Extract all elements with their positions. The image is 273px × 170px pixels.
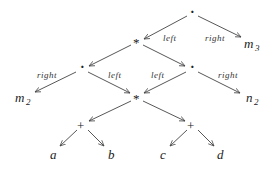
- edge-multop-dotright: [143, 45, 185, 66]
- node-mul-bottom: *: [133, 91, 140, 106]
- node-m3-base: m: [244, 36, 253, 51]
- node-n2-base: n: [246, 90, 253, 105]
- node-d: d: [217, 147, 224, 162]
- node-m2-base: m: [15, 90, 24, 105]
- edge-label-dotleft-right: right: [37, 70, 57, 80]
- edge-label-root-right: right: [205, 33, 225, 43]
- node-mul-top: *: [133, 35, 140, 50]
- edge-label-dotleft-left: left: [108, 70, 122, 80]
- edge-multop-dotleft: [89, 45, 131, 66]
- edge-plusright-d: [198, 130, 214, 146]
- diagram-svg: left right right left left right · * · ·…: [0, 0, 273, 170]
- edge-plusleft-a: [60, 130, 77, 146]
- node-n2-subscript: 2: [254, 97, 259, 107]
- node-m3: m 3: [244, 36, 260, 53]
- node-n2: n 2: [246, 90, 259, 107]
- edge-label-root-left: left: [163, 33, 177, 43]
- node-c: c: [160, 147, 166, 162]
- node-plus-right: +: [187, 118, 194, 133]
- node-b: b: [108, 147, 115, 162]
- node-dot-left: ·: [80, 60, 85, 75]
- edge-label-dotright-left: left: [151, 70, 165, 80]
- edge-label-dotright-right: right: [218, 70, 238, 80]
- node-plus-left: +: [77, 118, 84, 133]
- node-dot-right: ·: [190, 60, 195, 75]
- node-root: ·: [190, 5, 195, 20]
- edge-plusright-c: [170, 130, 187, 146]
- node-m2-subscript: 2: [26, 97, 31, 107]
- edge-mulbottom-plusright: [143, 101, 185, 121]
- node-m3-subscript: 3: [254, 43, 260, 53]
- edge-plusleft-b: [88, 130, 104, 146]
- edge-mulbottom-plusleft: [89, 101, 131, 121]
- expression-dag-diagram: left right right left left right · * · ·…: [0, 0, 273, 170]
- node-m2: m 2: [15, 90, 31, 107]
- node-a: a: [50, 147, 57, 162]
